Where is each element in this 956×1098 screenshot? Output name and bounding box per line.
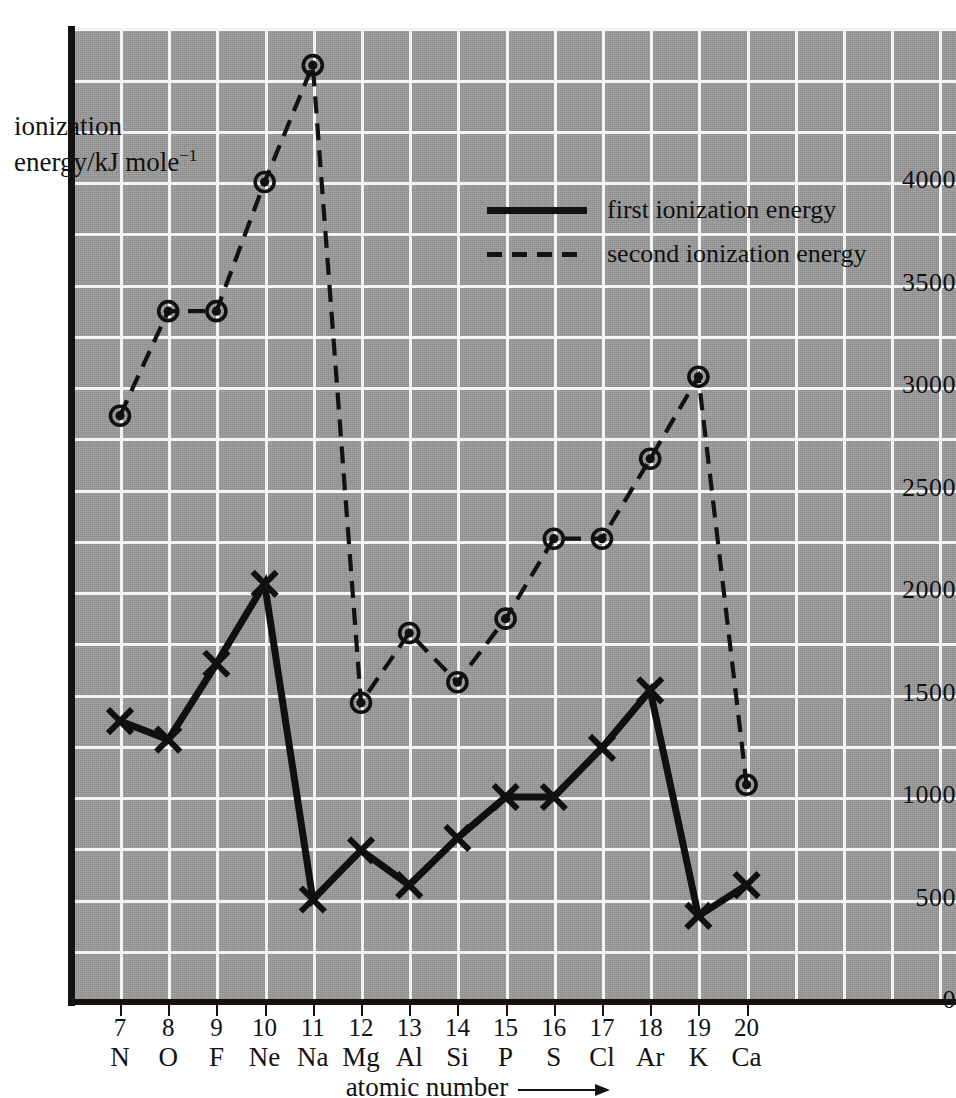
- data-point-marker-circle: [544, 529, 563, 548]
- second-ionization-line: [120, 65, 747, 785]
- right-arrow-icon: [518, 1084, 610, 1096]
- x-axis-title-text: atomic number: [346, 1072, 509, 1098]
- data-point-marker-cross: [590, 736, 614, 760]
- data-point-marker-circle: [400, 624, 419, 643]
- data-point-marker-circle: [255, 173, 274, 192]
- data-point-marker-circle: [111, 406, 130, 425]
- first-ionization-line: [120, 584, 747, 916]
- data-point-marker-cross: [349, 838, 373, 862]
- x-axis-title: atomic number: [0, 1072, 956, 1098]
- data-point-marker-cross: [397, 873, 421, 897]
- data-point-marker-circle: [448, 673, 467, 692]
- data-series-layer: [0, 0, 956, 1098]
- data-point-marker-circle: [207, 302, 226, 321]
- data-point-marker-circle: [641, 449, 660, 468]
- data-point-marker-cross: [204, 652, 228, 676]
- data-point-marker-circle: [496, 609, 515, 628]
- data-point-marker-cross: [735, 873, 759, 897]
- ionization-energy-chart: ionization energy/kJ mole−1 050010001500…: [0, 0, 956, 1098]
- data-point-marker-cross: [445, 826, 469, 850]
